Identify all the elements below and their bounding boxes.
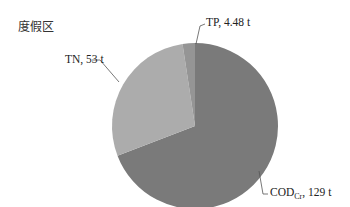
- tp-label: TP, 4.48 t: [206, 16, 250, 28]
- tn-label: TN, 53 t: [65, 53, 104, 65]
- cod-label: CODCr, 129 t: [270, 186, 331, 201]
- tp-leader-line: [196, 24, 205, 44]
- pie-chart: [0, 0, 350, 207]
